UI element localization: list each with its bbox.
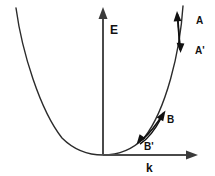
figure-canvas <box>0 0 215 176</box>
transition-a-prime-label: A' <box>195 46 205 56</box>
transition-a-label: A <box>196 16 203 26</box>
wavevector-axis-label: k <box>146 162 153 174</box>
dispersion-figure: E k A A' B B' <box>0 0 215 176</box>
parabola-curve <box>16 6 183 155</box>
transition-b-prime-line <box>142 113 164 140</box>
transition-b-prime-label: B' <box>144 142 154 152</box>
energy-axis-label: E <box>110 24 118 36</box>
transition-b-label: B <box>167 115 174 125</box>
energy-axis-arrowhead-icon <box>99 7 108 19</box>
wavevector-axis-arrowhead-icon <box>186 151 198 160</box>
